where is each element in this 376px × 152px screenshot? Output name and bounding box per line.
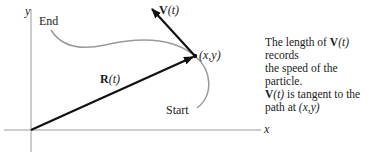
- position-vector-arrow: [31, 57, 193, 130]
- point-label: (x,y): [199, 49, 221, 62]
- velocity-arg: (t): [168, 3, 179, 17]
- start-label: Start: [166, 104, 189, 117]
- x-axis-label: x: [264, 123, 269, 136]
- caption-line-4: path at (x,y): [265, 101, 376, 114]
- end-label: End: [39, 15, 58, 28]
- caption-text: is tangent to the: [284, 88, 360, 100]
- caption-text: path at: [265, 101, 299, 113]
- caption-velocity-arg: (t): [338, 36, 349, 48]
- caption-point: (x,y): [299, 101, 320, 113]
- point-marker: [193, 54, 197, 58]
- velocity-vector-label: V(t): [159, 4, 179, 17]
- caption-line-2: the speed of the particle.: [265, 62, 376, 88]
- caption-velocity-arg: (t): [273, 88, 284, 100]
- caption: The length of V(t) records the speed of …: [265, 36, 376, 114]
- velocity-symbol: V: [159, 3, 168, 17]
- y-axis-label: y: [25, 5, 30, 18]
- caption-text: The length of: [265, 36, 330, 48]
- particle-path-curve: [51, 30, 209, 108]
- caption-line-1: The length of V(t) records: [265, 36, 376, 62]
- caption-velocity-symbol: V: [330, 36, 338, 48]
- caption-text: records: [265, 49, 299, 61]
- position-vector-label: R(t): [100, 73, 120, 86]
- position-symbol: R: [100, 72, 109, 86]
- position-arg: (t): [109, 72, 120, 86]
- caption-line-3: V(t) is tangent to the: [265, 88, 376, 101]
